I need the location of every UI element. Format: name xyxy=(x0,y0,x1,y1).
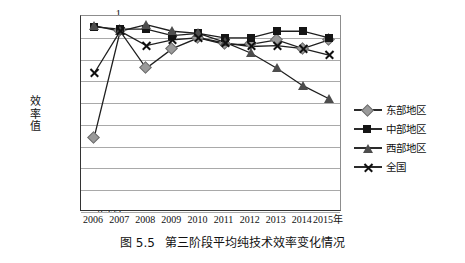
legend-item[interactable]: 全国 xyxy=(354,157,454,176)
legend-item[interactable]: 东部地区 xyxy=(354,100,454,119)
figure-caption: 图 5.5第三阶段平均纯技术效率变化情况 xyxy=(0,236,465,250)
legend-label: 东部地区 xyxy=(386,104,426,116)
data-point-marker xyxy=(167,26,177,35)
legend-label: 西部地区 xyxy=(386,142,426,154)
data-point-marker xyxy=(89,68,99,78)
gridline xyxy=(81,212,340,213)
data-point-marker xyxy=(325,34,333,42)
caption-text: 第三阶段平均纯技术效率变化情况 xyxy=(165,236,345,250)
legend: 东部地区中部地区西部地区全国 xyxy=(352,98,456,179)
x-axis-tick-label: 2015年 xyxy=(305,214,351,225)
plot-area xyxy=(80,15,341,211)
chart-figure: 效率值 10.9950.990.9850.980.9750.970.9650.9… xyxy=(0,0,465,263)
legend-label: 中部地区 xyxy=(386,123,426,135)
legend-item[interactable]: 西部地区 xyxy=(354,138,454,157)
data-point-marker xyxy=(273,27,281,35)
data-point-marker xyxy=(246,41,256,51)
data-point-marker xyxy=(141,41,151,51)
y-axis-title: 效率值 xyxy=(28,96,42,134)
legend-key-cross-icon xyxy=(354,161,382,173)
data-point-marker xyxy=(141,20,151,29)
legend-label: 全国 xyxy=(386,161,406,173)
data-point-marker xyxy=(272,63,282,72)
data-point-marker xyxy=(167,35,177,45)
data-point-marker xyxy=(220,38,230,48)
data-point-marker xyxy=(272,41,282,51)
legend-item[interactable]: 中部地区 xyxy=(354,119,454,138)
legend-key-triangle-icon xyxy=(354,142,382,154)
caption-number: 图 5.5 xyxy=(120,236,155,250)
data-point-marker xyxy=(324,50,334,60)
data-point-marker xyxy=(299,27,307,35)
data-point-marker xyxy=(115,26,125,36)
legend-key-diamond-icon xyxy=(354,104,382,116)
data-point-marker xyxy=(298,44,308,54)
legend-key-square-icon xyxy=(354,123,382,135)
data-point-marker xyxy=(298,81,308,90)
data-point-marker xyxy=(89,21,99,30)
data-point-marker xyxy=(193,33,203,43)
data-point-marker xyxy=(324,94,334,103)
